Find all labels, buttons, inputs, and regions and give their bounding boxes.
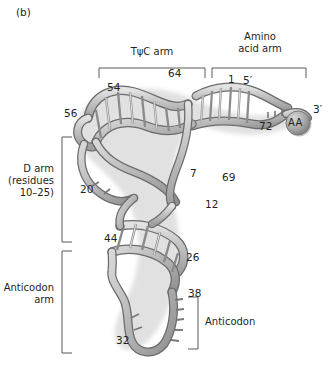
label-anticodon: Anticodon bbox=[205, 316, 255, 328]
label-aa-sphere: AA bbox=[288, 117, 303, 128]
residue-number-32: 32 bbox=[116, 335, 129, 346]
residue-number-44: 44 bbox=[104, 233, 117, 244]
label-anticodon-arm: Anticodon arm bbox=[0, 282, 54, 306]
label-amino-acid-arm: Amino acid arm bbox=[216, 31, 304, 55]
residue-number-7: 7 bbox=[190, 168, 197, 179]
residue-number-38: 38 bbox=[188, 288, 201, 299]
residue-number-64: 64 bbox=[168, 68, 181, 79]
bracket-amino-acid-arm bbox=[212, 68, 306, 78]
bracket-anticodon-arm bbox=[62, 251, 72, 353]
label-three-prime-end: 3′ bbox=[313, 104, 322, 115]
residue-number-12: 12 bbox=[205, 199, 218, 210]
residue-number-54: 54 bbox=[107, 82, 120, 93]
residue-number-72: 72 bbox=[259, 121, 272, 132]
bracket-d-arm bbox=[62, 137, 72, 242]
bracket-tpsic-arm bbox=[99, 68, 205, 78]
label-tpsic-arm: TψC arm bbox=[112, 46, 192, 58]
label-five-prime-end: 5′ bbox=[243, 75, 252, 86]
residue-number-69: 69 bbox=[222, 172, 235, 183]
label-d-arm: D arm (residues 10–25) bbox=[0, 163, 54, 199]
residue-number-56: 56 bbox=[64, 108, 77, 119]
residue-number-26: 26 bbox=[186, 252, 199, 263]
trna-structure-figure: (b) bbox=[0, 0, 334, 365]
residue-number-20: 20 bbox=[80, 184, 93, 195]
residue-number-1: 1 bbox=[228, 74, 235, 85]
bracket-anticodon bbox=[188, 297, 198, 349]
